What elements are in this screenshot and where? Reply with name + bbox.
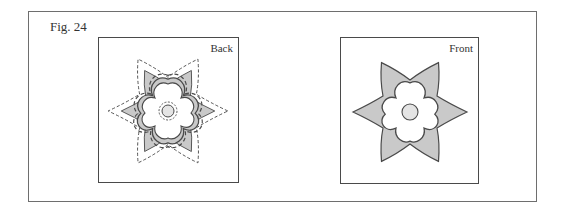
flower-artwork bbox=[0, 0, 567, 214]
back-flower bbox=[108, 59, 228, 163]
front-flower bbox=[353, 63, 467, 162]
